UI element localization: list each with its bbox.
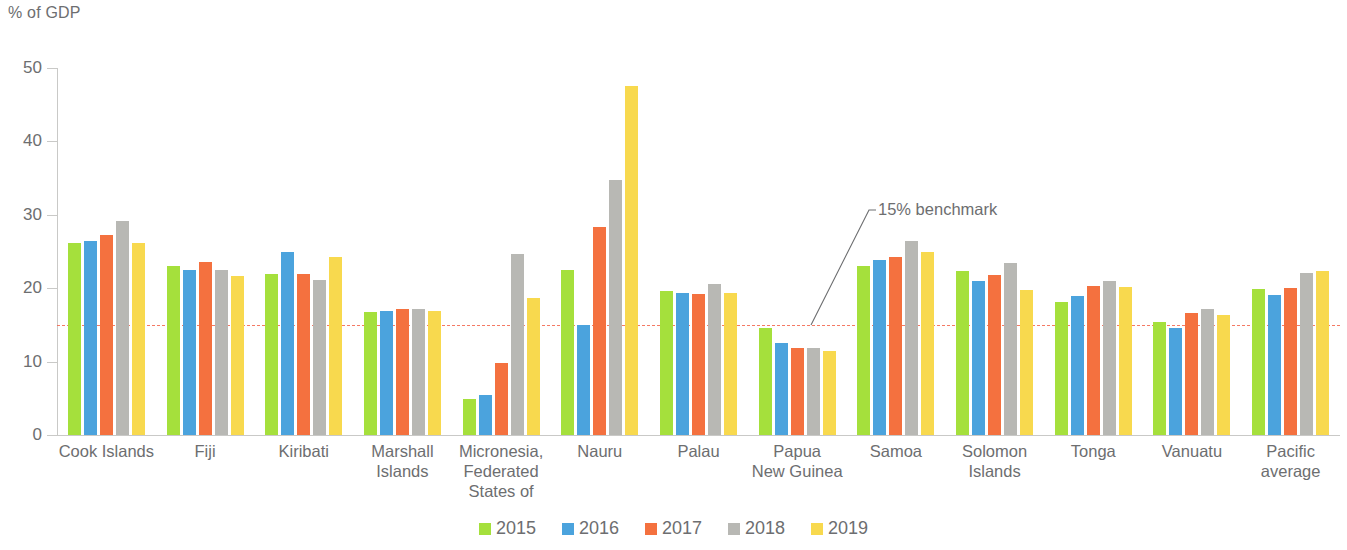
bar[interactable]: [1020, 290, 1033, 435]
category-label-line: Papua: [742, 441, 853, 461]
bar[interactable]: [1169, 328, 1182, 435]
bar[interactable]: [380, 311, 393, 435]
bar[interactable]: [1185, 313, 1198, 435]
bar[interactable]: [297, 274, 310, 435]
legend-item[interactable]: 2017: [645, 518, 702, 539]
bar[interactable]: [479, 395, 492, 435]
bar[interactable]: [791, 348, 804, 435]
legend-item[interactable]: 2019: [811, 518, 868, 539]
bar[interactable]: [609, 180, 622, 435]
bar[interactable]: [313, 280, 326, 435]
legend-label: 2017: [662, 518, 702, 539]
bar[interactable]: [100, 235, 113, 435]
y-axis-tick-label: 30: [0, 206, 42, 223]
bar[interactable]: [905, 241, 918, 435]
bar[interactable]: [889, 257, 902, 435]
bar[interactable]: [231, 276, 244, 435]
bar[interactable]: [463, 399, 476, 435]
bar[interactable]: [775, 343, 788, 435]
x-axis-category-label: Palau: [643, 441, 754, 461]
bar[interactable]: [759, 328, 772, 435]
bar[interactable]: [823, 351, 836, 435]
bar[interactable]: [412, 309, 425, 435]
bar[interactable]: [116, 221, 129, 435]
bar[interactable]: [807, 348, 820, 435]
category-label-line: New Guinea: [742, 461, 853, 481]
bar[interactable]: [183, 270, 196, 435]
bar[interactable]: [1055, 302, 1068, 435]
bar-group: [164, 68, 246, 435]
bar[interactable]: [1004, 263, 1017, 435]
x-axis-category-label: Samoa: [841, 441, 952, 461]
bar[interactable]: [1153, 322, 1166, 435]
legend-item[interactable]: 2018: [728, 518, 785, 539]
bar[interactable]: [1284, 288, 1297, 435]
bar[interactable]: [428, 311, 441, 435]
x-axis-category-label: Fiji: [150, 441, 261, 461]
bar[interactable]: [692, 294, 705, 435]
category-label-line: Federated: [446, 461, 557, 481]
bar[interactable]: [1103, 281, 1116, 435]
bar[interactable]: [329, 257, 342, 435]
legend-item[interactable]: 2015: [479, 518, 536, 539]
legend-swatch-icon: [562, 523, 574, 535]
bar-group: [263, 68, 345, 435]
bar[interactable]: [215, 270, 228, 435]
bar[interactable]: [1119, 287, 1132, 435]
bar[interactable]: [1217, 315, 1230, 435]
x-axis-category-labels: Cook IslandsFijiKiribatiMarshallIslandsM…: [57, 441, 1340, 511]
bar[interactable]: [495, 363, 508, 435]
bar[interactable]: [527, 298, 540, 435]
bar[interactable]: [265, 274, 278, 435]
y-axis-unit-label: % of GDP: [8, 4, 81, 22]
bar[interactable]: [167, 266, 180, 435]
bar[interactable]: [1252, 289, 1265, 435]
category-label-line: Pacific: [1235, 441, 1346, 461]
y-axis-tick-label: 0: [0, 426, 42, 443]
x-axis-category-label: Micronesia,FederatedStates of: [446, 441, 557, 501]
y-axis-tick-label: 50: [0, 59, 42, 76]
bar-group: [658, 68, 740, 435]
bar[interactable]: [972, 281, 985, 435]
bar[interactable]: [988, 275, 1001, 435]
bar[interactable]: [660, 291, 673, 435]
y-axis-tick-label: 10: [0, 353, 42, 370]
x-axis-category-label: Pacificaverage: [1235, 441, 1346, 481]
bar[interactable]: [724, 293, 737, 435]
bar[interactable]: [199, 262, 212, 435]
bar[interactable]: [396, 309, 409, 435]
category-label-line: Islands: [347, 461, 458, 481]
legend-item[interactable]: 2016: [562, 518, 619, 539]
bar[interactable]: [132, 243, 145, 435]
bar[interactable]: [511, 254, 524, 435]
bar[interactable]: [84, 241, 97, 435]
bar[interactable]: [1268, 295, 1281, 435]
bar[interactable]: [625, 86, 638, 435]
bar[interactable]: [68, 243, 81, 435]
bar[interactable]: [857, 266, 870, 435]
category-label-line: Micronesia,: [446, 441, 557, 461]
bar[interactable]: [281, 252, 294, 435]
bar[interactable]: [1300, 273, 1313, 435]
bar[interactable]: [593, 227, 606, 435]
bar[interactable]: [873, 260, 886, 435]
bar[interactable]: [1316, 271, 1329, 435]
bar[interactable]: [676, 293, 689, 435]
x-axis-category-label: Nauru: [544, 441, 655, 461]
x-axis-category-label: Cook Islands: [51, 441, 162, 461]
x-axis-category-label: Tonga: [1038, 441, 1149, 461]
bar[interactable]: [364, 312, 377, 435]
bar[interactable]: [1201, 309, 1214, 435]
x-axis-category-label: Kiribati: [248, 441, 359, 461]
bar[interactable]: [1071, 296, 1084, 435]
y-axis-tick-label: 40: [0, 132, 42, 149]
bar[interactable]: [561, 270, 574, 435]
bar[interactable]: [956, 271, 969, 435]
x-axis-line: [57, 435, 1340, 436]
bar[interactable]: [577, 325, 590, 435]
category-label-line: Palau: [643, 441, 754, 461]
bar[interactable]: [921, 252, 934, 436]
bar[interactable]: [1087, 286, 1100, 435]
bar[interactable]: [708, 284, 721, 435]
chart-container: % of GDP 01020304050 15% benchmark Cook …: [0, 0, 1347, 550]
